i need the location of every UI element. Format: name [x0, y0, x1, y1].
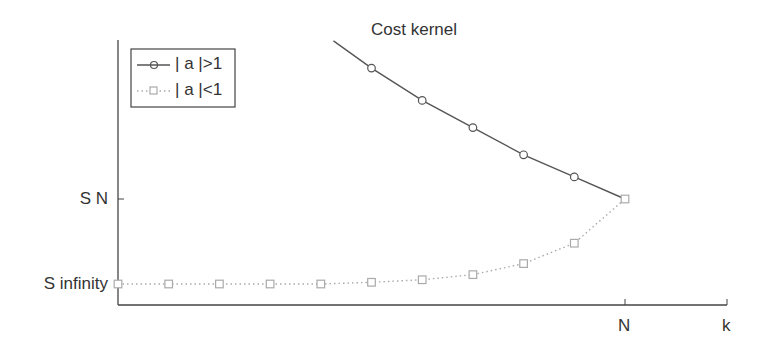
square-marker-icon [114, 280, 122, 288]
chart-canvas [0, 0, 762, 347]
square-marker-icon [520, 260, 528, 268]
square-marker-icon [621, 195, 629, 203]
square-marker-icon [418, 276, 426, 284]
circle-marker-icon [469, 124, 477, 132]
legend-marker-square-icon [150, 87, 157, 94]
circle-marker-icon [520, 151, 528, 159]
square-marker-icon [368, 279, 376, 287]
y-tick-label-SN: S N [80, 189, 108, 209]
legend-label-1: | a |>1 [175, 54, 222, 74]
series-line-1 [333, 41, 625, 199]
circle-marker-icon [571, 173, 579, 181]
square-marker-icon [469, 271, 477, 279]
y-tick-label-Sinf: S infinity [44, 274, 108, 294]
square-marker-icon [571, 239, 579, 247]
x-tick-label-N: N [618, 316, 630, 336]
square-marker-icon [317, 280, 325, 288]
legend-label-2: | a |<1 [175, 80, 222, 100]
chart-title: Cost kernel [371, 20, 457, 40]
square-marker-icon [216, 280, 224, 288]
square-marker-icon [266, 280, 274, 288]
x-axis-label: k [722, 316, 731, 336]
series-line-2 [118, 199, 625, 284]
circle-marker-icon [418, 97, 426, 105]
square-marker-icon [165, 280, 173, 288]
circle-marker-icon [368, 64, 376, 72]
